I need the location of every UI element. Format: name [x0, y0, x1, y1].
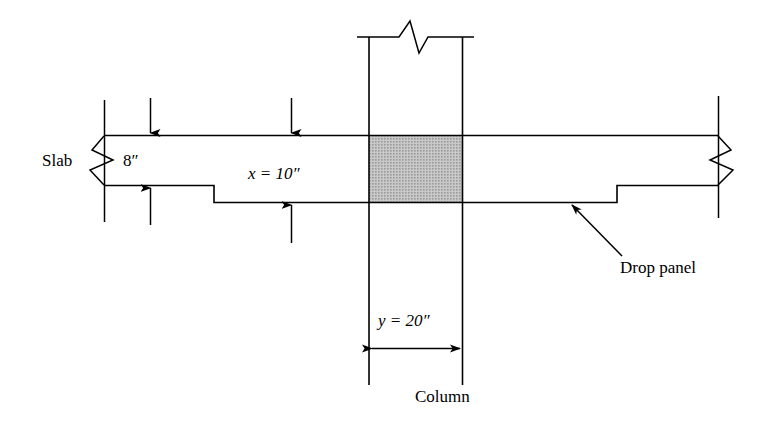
drop-panel-leader-line: [572, 205, 622, 256]
left-break-symbol-icon: [90, 136, 113, 185]
drop-panel-label: Drop panel: [620, 259, 696, 276]
slab-label: Slab: [42, 152, 72, 169]
figure-canvas: Slab 8″ x = 10″ y = 20″ Column Drop pane…: [0, 0, 777, 428]
column-break-symbol-icon: [357, 21, 474, 53]
column-width-label: y = 20″: [378, 312, 430, 329]
slab-thickness-label: 8″: [123, 152, 139, 169]
drop-panel-depth-label: x = 10″: [248, 165, 300, 182]
column-label: Column: [415, 388, 470, 405]
right-break-symbol-icon: [710, 136, 733, 185]
shaded-joint-region: [369, 136, 463, 202]
slab-drop-panel-section-drawing: [0, 0, 777, 428]
